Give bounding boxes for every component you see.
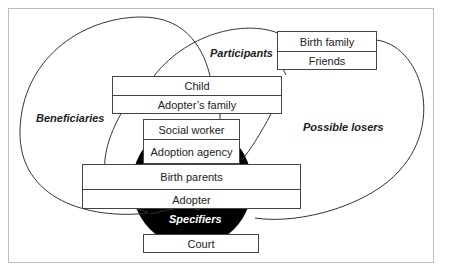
- box-parents-adopter: Birth parents Adopter: [82, 164, 301, 209]
- child-label: Child: [113, 77, 281, 95]
- beneficiaries-label: Beneficiaries: [36, 112, 104, 124]
- box-social-agency: Social worker Adoption agency: [143, 119, 240, 164]
- birth-family-label: Birth family: [278, 32, 376, 51]
- participants-label: Participants: [210, 47, 273, 59]
- box-birth-family-friends: Birth family Friends: [277, 31, 377, 70]
- possible-losers-inner: [242, 112, 272, 160]
- social-worker-label: Social worker: [144, 120, 239, 139]
- adoption-agency-label: Adoption agency: [144, 140, 239, 164]
- box-child-family: Child Adopter’s family: [112, 76, 282, 114]
- box-court: Court: [143, 234, 259, 253]
- possible-losers-label: Possible losers: [303, 121, 384, 133]
- court-label: Court: [144, 235, 258, 253]
- friends-label: Friends: [278, 52, 376, 70]
- adopters-family-label: Adopter’s family: [113, 96, 281, 114]
- adopter-label: Adopter: [83, 190, 300, 209]
- specifiers-label: Specifiers: [169, 213, 222, 225]
- birth-parents-label: Birth parents: [83, 165, 300, 189]
